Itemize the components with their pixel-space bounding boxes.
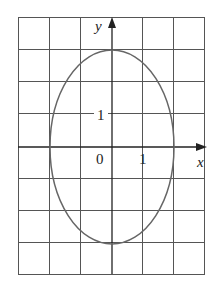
x-tick-label: 1 bbox=[139, 152, 147, 167]
grid-diagram bbox=[0, 0, 209, 281]
grid-lines bbox=[18, 17, 205, 275]
x-axis-label: x bbox=[197, 155, 204, 170]
x-axis-arrow-icon bbox=[196, 143, 207, 151]
y-axis-arrow-icon bbox=[108, 17, 116, 28]
origin-label: 0 bbox=[96, 152, 104, 167]
y-tick-label: 1 bbox=[97, 108, 105, 123]
y-axis-label: y bbox=[95, 19, 102, 34]
